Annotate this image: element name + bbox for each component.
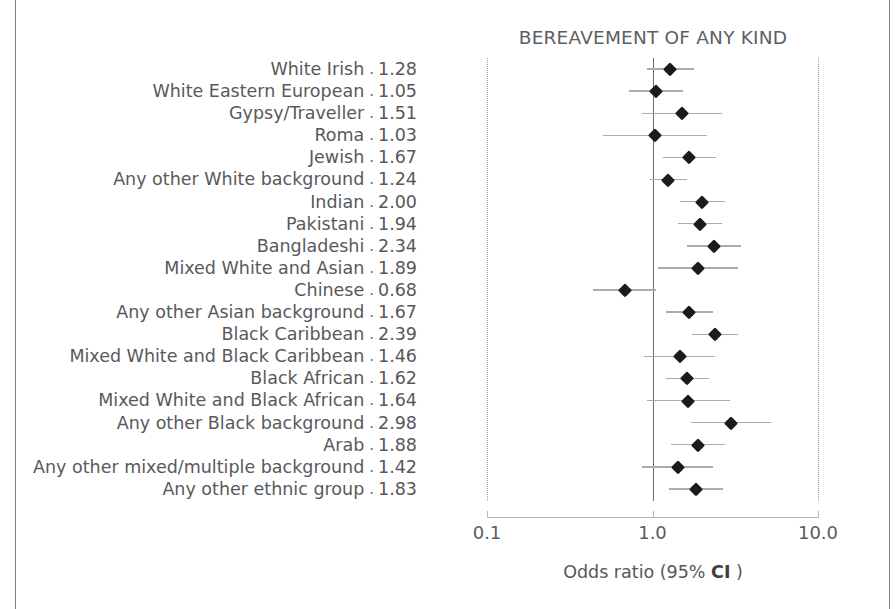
point-estimate-marker (680, 372, 693, 385)
point-estimate-marker (707, 239, 720, 252)
point-estimate-marker (689, 482, 702, 495)
x-tick-label-0.1: 0.1 (473, 522, 502, 543)
point-estimate-marker (683, 305, 696, 318)
x-tick-1.0 (653, 511, 654, 518)
x-tick-10.0 (818, 511, 819, 518)
x-axis-title-suffix: ) (730, 562, 742, 582)
point-estimate-marker (618, 283, 631, 296)
point-estimate-marker (661, 173, 674, 186)
point-estimate-marker (693, 217, 706, 230)
point-estimate-marker (696, 195, 709, 208)
x-tick-0.1 (487, 511, 488, 518)
point-estimate-marker (681, 394, 694, 407)
chart-title: BEREAVEMENT OF ANY KIND (487, 27, 819, 48)
point-estimate-marker (675, 107, 688, 120)
x-axis-title-emphasis: CI (711, 562, 730, 582)
point-estimate-marker (671, 460, 684, 473)
plot-area (0, 58, 895, 501)
point-estimate-marker (664, 62, 677, 75)
x-tick-label-10.0: 10.0 (798, 522, 838, 543)
point-estimate-marker (673, 350, 686, 363)
reference-line (653, 58, 654, 501)
gridline-0.1 (487, 58, 489, 501)
x-tick-label-1.0: 1.0 (638, 522, 667, 543)
forest-plot-figure: BEREAVEMENT OF ANY KIND White Irish.1.28… (0, 0, 895, 609)
gridline-10.0 (818, 58, 820, 501)
point-estimate-marker (649, 84, 662, 97)
point-estimate-marker (708, 328, 721, 341)
point-estimate-marker (648, 129, 661, 142)
point-estimate-marker (683, 151, 696, 164)
point-estimate-marker (724, 416, 737, 429)
point-estimate-marker (692, 261, 705, 274)
x-axis-title: Odds ratio (95% CI ) (487, 562, 819, 582)
x-axis-title-prefix: Odds ratio (95% (563, 562, 711, 582)
point-estimate-marker (691, 438, 704, 451)
